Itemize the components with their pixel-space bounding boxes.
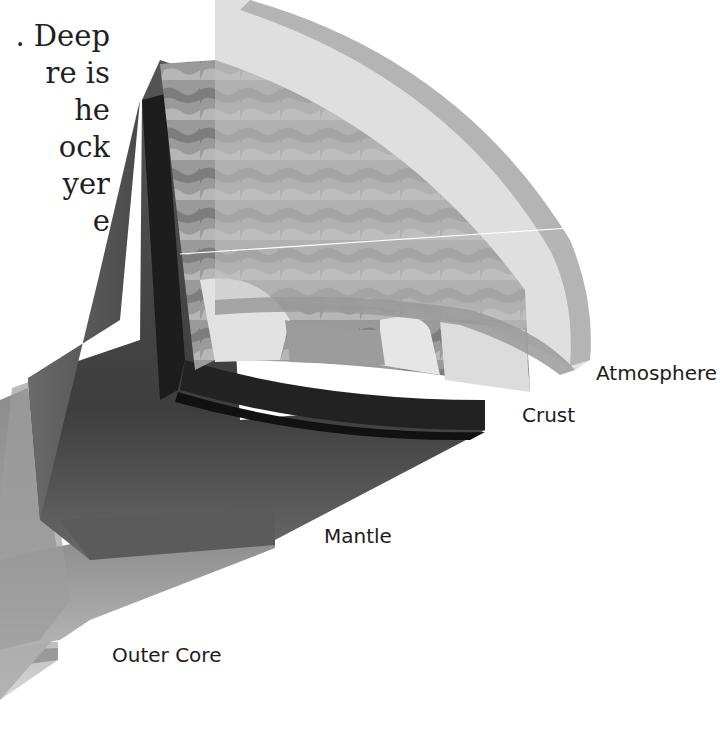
label-mantle: Mantle <box>324 524 392 548</box>
label-crust: Crust <box>522 403 575 427</box>
label-atmosphere: Atmosphere <box>596 361 717 385</box>
label-outer-core: Outer Core <box>112 643 221 667</box>
earth-layers-diagram: . Deep re is he ock yer e <box>0 0 720 739</box>
